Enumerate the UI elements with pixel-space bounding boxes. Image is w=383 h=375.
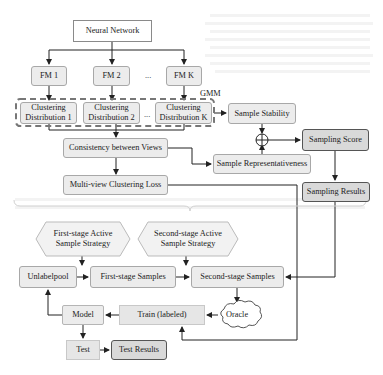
consistency-label: Consistency between Views [69,143,162,153]
test-results-label: Test Results [119,345,159,355]
second-stage-strategy: Second-stage Active Sample Strategy [138,222,238,256]
multi-view-loss-label: Multi-view Clustering Loss [70,180,162,190]
multi-view-loss-box: Multi-view Clustering Loss [63,175,168,195]
second-stage-samples-box: Second-stage Samples [191,266,284,288]
oracle-label: Oracle [226,310,248,319]
first-samples-label: First-stage Samples [100,272,165,282]
sampling-score-box: Sampling Score [302,129,369,151]
second-samples-label: Second-stage Samples [200,272,274,282]
model-box: Model [62,305,104,325]
clustering-2-line1: Clustering [94,103,129,113]
fm-ellipsis: ... [145,71,151,80]
first-strategy-line2: Sample Strategy [56,239,111,249]
fm-1-label: FM 1 [40,71,58,81]
second-strategy-line2: Sample Strategy [161,239,216,249]
fm-2-box: FM 2 [93,66,130,86]
gmm-label: GMM [200,89,221,98]
clustering-distribution-2: Clustering Distribution 2 [83,102,140,124]
clustering-1-line2: Distribution 1 [25,113,71,123]
fm-1-box: FM 1 [31,66,67,86]
first-stage-samples-box: First-stage Samples [90,266,176,288]
clustering-2-line2: Distribution 2 [88,113,134,123]
sample-stability-box: Sample Stability [228,103,296,124]
sampling-results-box: Sampling Results [302,182,370,202]
neural-network-label: Neural Network [86,26,140,36]
train-label: Train (labeled) [137,310,186,320]
sample-stability-label: Sample Stability [234,109,289,119]
fm-2-label: FM 2 [102,71,120,81]
test-results-box: Test Results [111,340,167,360]
unlabelpool-label: Unlabelpool [27,272,68,282]
first-strategy-line1: First-stage Active [54,229,113,239]
clustering-distribution-1: Clustering Distribution 1 [20,102,77,124]
unlabelpool-box: Unlabelpool [19,266,77,288]
sampling-score-label: Sampling Score [309,135,362,145]
model-label: Model [72,310,94,320]
clustering-distribution-k: Clustering Distribution K [155,102,212,124]
fm-k-label: FM K [174,71,194,81]
sample-representativeness-label: Sample Representativeness [217,159,308,169]
test-label: Test [76,345,90,355]
test-box: Test [66,340,100,360]
clustering-ellipsis: ... [144,110,150,119]
second-strategy-line1: Second-stage Active [154,229,222,239]
sampling-results-label: Sampling Results [307,187,365,197]
neural-network-box: Neural Network [73,20,152,42]
first-stage-strategy: First-stage Active Sample Strategy [36,222,130,256]
consistency-box: Consistency between Views [63,138,168,158]
clustering-1-line1: Clustering [31,103,66,113]
fm-k-box: FM K [166,66,202,86]
sample-representativeness-box: Sample Representativeness [213,154,311,174]
clustering-k-line1: Clustering [166,103,201,113]
clustering-k-line2: Distribution K [159,113,207,123]
train-labeled-box: Train (labeled) [119,305,205,325]
